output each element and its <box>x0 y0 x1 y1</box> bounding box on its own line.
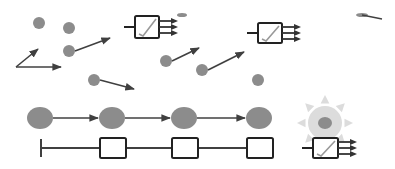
glow-core <box>318 117 332 129</box>
particle <box>63 22 75 34</box>
output-arrowhead-icon <box>294 24 301 30</box>
momentum-arrows <box>16 38 244 89</box>
particle <box>252 74 264 86</box>
track-box <box>172 138 198 158</box>
detector-icon <box>247 23 301 43</box>
output-arrowhead-icon <box>294 30 301 36</box>
output-arrowhead-icon <box>350 139 357 145</box>
glow-ray-icon <box>345 119 353 128</box>
particle <box>33 17 45 29</box>
output-arrowhead-icon <box>294 36 301 42</box>
particle-chain <box>27 107 272 129</box>
trail-line <box>362 15 382 19</box>
particle-diagram <box>0 0 395 169</box>
detector-icon <box>124 16 178 38</box>
box-track <box>41 138 273 158</box>
arrow <box>75 38 110 51</box>
output-arrowhead-icon <box>171 30 178 36</box>
particle <box>63 45 75 57</box>
arrow <box>16 49 38 67</box>
particle <box>196 64 208 76</box>
output-arrowhead-icon <box>350 151 357 157</box>
chain-particle <box>171 107 197 129</box>
chain-particle <box>246 107 272 129</box>
arrow <box>100 80 134 89</box>
arrow <box>208 52 244 70</box>
track-box <box>100 138 126 158</box>
partial-particles <box>177 13 382 19</box>
chain-particle <box>99 107 125 129</box>
output-arrowhead-icon <box>350 145 357 151</box>
glow-ray-icon <box>336 103 345 112</box>
glow-ray-icon <box>321 95 330 103</box>
output-arrowhead-icon <box>171 24 178 30</box>
output-arrowhead-icon <box>171 18 178 24</box>
partial-particle <box>177 13 187 17</box>
glow-ray-icon <box>305 103 314 112</box>
glow-ray-icon <box>297 119 305 128</box>
track-box <box>247 138 273 158</box>
chain-particle <box>27 107 53 129</box>
particle <box>160 55 172 67</box>
arrow <box>172 48 199 61</box>
particle <box>88 74 100 86</box>
